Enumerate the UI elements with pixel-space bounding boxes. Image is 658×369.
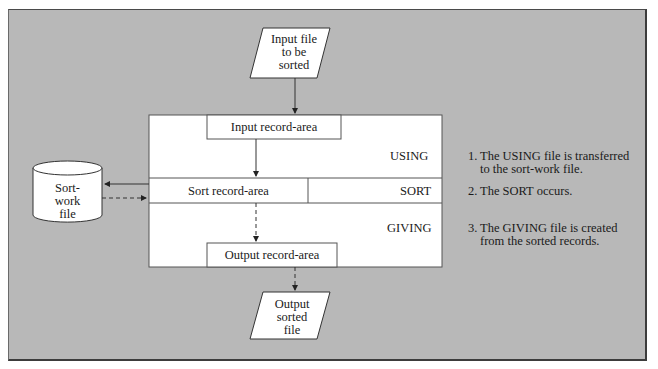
input-record-area-label: Input record-area [207,121,341,134]
step-3-number: 3. [468,222,480,235]
output-record-area-label: Output record-area [207,249,337,262]
step-1-line-1: The USING file is transferred [480,149,629,163]
step-2-line-1: The SORT occurs. [480,184,572,198]
sort-label: SORT [400,185,431,198]
step-2: 2.The SORT occurs. [468,185,572,198]
step-3-line-1: The GIVING file is created [480,221,617,235]
step-1: 1.The USING file is transferred to the s… [468,150,629,176]
step-3: 3.The GIVING file is created from the so… [468,222,617,248]
input-file-line-3: sorted [260,59,328,72]
step-2-number: 2. [468,185,480,198]
sort-work-file-line-3: file [33,208,102,221]
step-1-number: 1. [468,150,480,163]
using-label: USING [390,150,428,163]
sort-record-area-label: Sort record-area [149,185,308,198]
step-3-line-2: from the sorted records. [468,235,617,248]
output-file-label: Output sorted file [258,298,326,337]
sort-work-file-label: Sort- work file [33,182,102,221]
giving-label: GIVING [387,222,431,235]
output-file-line-3: file [258,324,326,337]
step-1-line-2: to the sort-work file. [468,163,629,176]
input-file-label: Input file to be sorted [260,33,328,72]
